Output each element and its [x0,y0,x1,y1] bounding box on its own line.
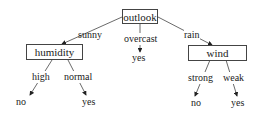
edge-label-high: high [32,71,50,83]
node-outlook: outlook [122,9,158,24]
node-wind: wind [188,45,247,61]
node-outlook-label: outlook [123,11,157,23]
leaf-overcast-yes: yes [132,52,145,64]
decision-tree-diagram: outlook humidity wind sunny overcast rai… [0,0,260,118]
node-humidity: humidity [26,44,83,60]
leaf-weak-yes: yes [231,97,244,109]
edge-label-sunny: sunny [78,29,102,41]
edge-label-rain: rain [184,29,200,41]
edge-label-overcast: overcast [124,33,157,45]
edge-label-normal: normal [64,71,92,83]
edge-label-strong: strong [188,72,213,84]
node-humidity-label: humidity [35,46,75,58]
leaf-normal-yes: yes [82,96,95,108]
leaf-high-no: no [16,96,26,108]
edge-label-weak: weak [223,72,244,84]
leaf-strong-no: no [191,97,201,109]
node-wind-label: wind [207,47,229,59]
